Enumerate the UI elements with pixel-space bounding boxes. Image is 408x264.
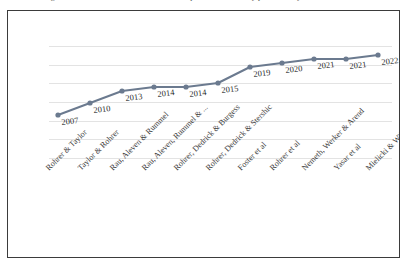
data-point-year-label: 2015	[221, 83, 239, 95]
category-axis-label: Foster et al	[236, 140, 268, 172]
data-point-year-label: 2022	[381, 55, 399, 67]
category-axis-label: Nemeth, Werker & Arend	[300, 106, 366, 172]
data-point-year-label: 2020	[285, 63, 303, 75]
category-axis: 2007201020132014201420152019202020212021…	[8, 11, 399, 257]
data-point-year-label: 2019	[253, 67, 271, 79]
figure-caption-strip: Figure 1. Timeline of studies on interle…	[0, 0, 408, 9]
category-axis-label: Yasar et al	[332, 142, 363, 173]
data-point-year-label: 2014	[189, 87, 207, 99]
figure-caption-text: Figure 1. Timeline of studies on interle…	[44, 0, 311, 1]
data-point-year-label: 2021	[349, 59, 367, 71]
category-axis-label: Mielicki & Wiley	[364, 125, 400, 172]
category-axis-label: Rau, Aleven & Rummel	[108, 110, 170, 172]
data-point-year-label: 2007	[61, 115, 79, 127]
figure-frame: 2007201020132014201420152019202020212021…	[7, 10, 400, 258]
data-point-year-label: 2014	[157, 87, 175, 99]
data-point-year-label: 2010	[93, 103, 111, 115]
data-point-year-label: 2021	[317, 59, 335, 71]
data-point-year-label: 2013	[125, 91, 143, 103]
category-axis-label: Rohrer et al	[268, 139, 302, 173]
